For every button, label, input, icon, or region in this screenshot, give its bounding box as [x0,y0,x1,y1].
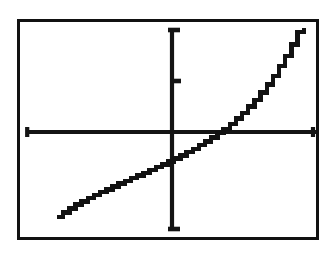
graph-plot-area [20,22,316,237]
calculator-screen-frame [17,19,319,240]
function-curve [57,28,304,217]
